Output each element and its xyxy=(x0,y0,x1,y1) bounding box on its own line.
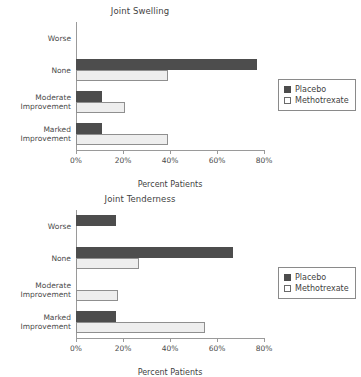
chart-title: Joint Swelling xyxy=(0,6,280,16)
legend-label-placebo: Placebo xyxy=(295,84,326,95)
category-label-worse: Worse xyxy=(48,34,71,43)
bar-methotrexate-none xyxy=(76,258,139,269)
x-tick-1 xyxy=(123,150,124,154)
category-label-line1: Moderate xyxy=(35,281,71,290)
x-tick-4 xyxy=(264,150,265,154)
category-label-marked-improvement: Marked Improvement xyxy=(21,125,71,143)
bar-placebo-worse xyxy=(76,215,116,226)
category-label-moderate-improvement: Moderate Improvement xyxy=(21,281,71,299)
bar-placebo-moderate-improvement xyxy=(76,91,102,102)
x-tick-label-0: 0% xyxy=(70,344,82,353)
x-tick-0 xyxy=(76,338,77,342)
category-label-none: None xyxy=(51,254,71,263)
category-label-line1: None xyxy=(51,254,71,263)
legend-swatch-methotrexate-icon xyxy=(284,97,291,104)
bar-methotrexate-none xyxy=(76,70,168,81)
legend-item-methotrexate: Methotrexate xyxy=(284,283,349,294)
x-tick-label-3: 60% xyxy=(209,344,226,353)
category-label-line2: Improvement xyxy=(21,290,71,299)
x-tick-label-2: 40% xyxy=(162,344,179,353)
bar-placebo-marked-improvement xyxy=(76,123,102,134)
legend-label-methotrexate: Methotrexate xyxy=(295,95,349,106)
category-label-line1: Worse xyxy=(48,34,71,43)
category-label-line1: Marked xyxy=(43,125,71,134)
plot-area-swelling: 0% 20% 40% 60% 80% Worse None Moderate I… xyxy=(76,22,264,150)
legend-item-methotrexate: Methotrexate xyxy=(284,95,349,106)
category-label-line1: Worse xyxy=(48,222,71,231)
x-tick-2 xyxy=(170,150,171,154)
category-label-none: None xyxy=(51,66,71,75)
category-group-moderate-improvement: Moderate Improvement xyxy=(76,86,264,118)
x-tick-0 xyxy=(76,150,77,154)
legend-swatch-methotrexate-icon xyxy=(284,285,291,292)
chart-title: Joint Tenderness xyxy=(0,194,280,204)
category-group-moderate-improvement: Moderate Improvement xyxy=(76,274,264,306)
category-group-marked-improvement: Marked Improvement xyxy=(76,306,264,338)
bar-placebo-marked-improvement xyxy=(76,311,116,322)
category-group-worse: Worse xyxy=(76,210,264,242)
x-tick-label-2: 40% xyxy=(162,156,179,165)
x-tick-label-1: 20% xyxy=(115,156,132,165)
legend-label-placebo: Placebo xyxy=(295,272,326,283)
category-label-moderate-improvement: Moderate Improvement xyxy=(21,93,71,111)
legend-tenderness: Placebo Methotrexate xyxy=(278,267,356,299)
legend-item-placebo: Placebo xyxy=(284,272,349,283)
legend-swatch-placebo-icon xyxy=(284,86,291,93)
legend-swatch-placebo-icon xyxy=(284,274,291,281)
legend-label-methotrexate: Methotrexate xyxy=(295,283,349,294)
x-tick-3 xyxy=(217,150,218,154)
x-tick-label-0: 0% xyxy=(70,156,82,165)
category-group-none: None xyxy=(76,54,264,86)
bar-placebo-none xyxy=(76,59,257,70)
x-tick-1 xyxy=(123,338,124,342)
x-tick-4 xyxy=(264,338,265,342)
x-tick-label-3: 60% xyxy=(209,156,226,165)
plot-area-tenderness: 0% 20% 40% 60% 80% Worse None Moderate I… xyxy=(76,210,264,338)
category-label-marked-improvement: Marked Improvement xyxy=(21,313,71,331)
category-label-line2: Improvement xyxy=(21,134,71,143)
category-group-worse: Worse xyxy=(76,22,264,54)
legend-swelling: Placebo Methotrexate xyxy=(278,79,356,111)
bar-methotrexate-marked-improvement xyxy=(76,322,205,333)
x-tick-2 xyxy=(170,338,171,342)
x-axis-title: Percent Patients xyxy=(76,368,264,377)
category-label-line1: Moderate xyxy=(35,93,71,102)
bar-placebo-none xyxy=(76,247,233,258)
bar-methotrexate-moderate-improvement xyxy=(76,102,125,113)
bar-methotrexate-marked-improvement xyxy=(76,134,168,145)
chart-joint-tenderness: Joint Tenderness 0% 20% 40% 60% 80% Wors… xyxy=(0,188,361,376)
legend-item-placebo: Placebo xyxy=(284,84,349,95)
category-label-line2: Improvement xyxy=(21,322,71,331)
category-label-line1: None xyxy=(51,66,71,75)
x-tick-label-4: 80% xyxy=(256,344,273,353)
category-label-line2: Improvement xyxy=(21,102,71,111)
category-group-marked-improvement: Marked Improvement xyxy=(76,118,264,150)
category-label-line1: Marked xyxy=(43,313,71,322)
category-group-none: None xyxy=(76,242,264,274)
x-tick-label-4: 80% xyxy=(256,156,273,165)
x-tick-label-1: 20% xyxy=(115,344,132,353)
category-label-worse: Worse xyxy=(48,222,71,231)
chart-joint-swelling: Joint Swelling 0% 20% 40% 60% 80% Worse … xyxy=(0,0,361,188)
x-tick-3 xyxy=(217,338,218,342)
bar-methotrexate-moderate-improvement xyxy=(76,290,118,301)
